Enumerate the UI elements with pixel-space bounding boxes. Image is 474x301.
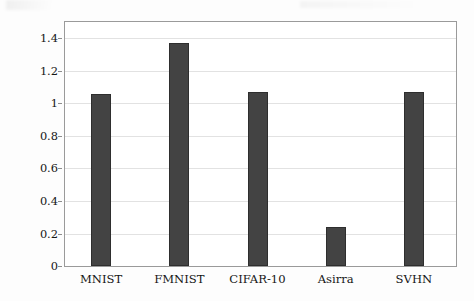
y-tick-mark — [58, 71, 62, 72]
y-tick-mark — [58, 103, 62, 104]
bar-asirra[interactable] — [326, 227, 346, 266]
y-axis-tick-labels: 00.20.40.60.811.21.4 — [0, 21, 58, 267]
y-tick-mark — [58, 136, 62, 137]
bar-mnist[interactable] — [91, 94, 111, 266]
y-tick-label: 0.6 — [6, 162, 58, 174]
bar-chart-figure: Log-ratio of average inference time 00.2… — [0, 0, 474, 301]
scan-artifact-icon — [6, 0, 52, 10]
y-tick-mark — [58, 234, 62, 235]
y-tick-label: 0.8 — [6, 130, 58, 142]
gridline — [65, 38, 456, 39]
y-tick-label: 1.4 — [6, 32, 58, 44]
bar-fmnist[interactable] — [169, 43, 189, 266]
x-tick-label-svhn: SVHN — [364, 272, 464, 286]
y-tick-mark — [58, 266, 62, 267]
plot-area — [64, 21, 457, 267]
y-tick-label: 0.2 — [6, 228, 58, 240]
y-tick-label: 1.2 — [6, 65, 58, 77]
y-tick-mark — [58, 38, 62, 39]
scan-artifact-secondary-icon — [300, 1, 420, 8]
bar-cifar-10[interactable] — [248, 92, 268, 266]
y-tick-label: 0 — [6, 260, 58, 272]
y-tick-mark — [58, 168, 62, 169]
y-tick-label: 0.4 — [6, 195, 58, 207]
y-tick-label: 1 — [6, 97, 58, 109]
gridline — [65, 71, 456, 72]
bar-svhn[interactable] — [404, 92, 424, 266]
y-tick-mark — [58, 201, 62, 202]
